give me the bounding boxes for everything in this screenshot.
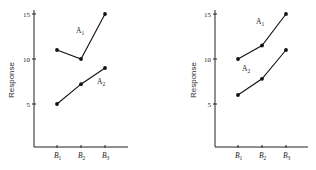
data-point [79, 82, 83, 86]
x-tick-label: B1 [235, 151, 243, 161]
data-point [55, 102, 59, 106]
data-point [55, 48, 59, 52]
series-label-a1: A1 [256, 17, 264, 27]
interaction-plots: 51015B1B2B3ResponseA1A251015B1B2B3Respon… [0, 0, 316, 170]
data-point [103, 66, 107, 70]
y-tick-label: 5 [208, 101, 212, 109]
y-tick-label: 5 [27, 101, 31, 109]
y-tick-label: 10 [204, 56, 212, 64]
y-tick-label: 15 [23, 11, 31, 19]
x-tick-label: B1 [54, 151, 62, 161]
data-point [79, 57, 83, 61]
y-axis-label: Response [189, 61, 198, 98]
chart-panel-2: 51015B1B2B3ResponseA1A2 [189, 10, 308, 161]
data-point [284, 48, 288, 52]
data-point [236, 57, 240, 61]
series-label-a1: A1 [76, 26, 84, 36]
x-tick-label: B2 [78, 151, 86, 161]
x-tick-label: B3 [283, 151, 291, 161]
data-point [260, 77, 264, 81]
series-label-a2: A2 [242, 64, 250, 74]
series-line-a1 [57, 14, 105, 59]
y-axis-label: Response [7, 61, 16, 98]
data-point [260, 44, 264, 48]
y-tick-label: 10 [23, 56, 31, 64]
data-point [284, 12, 288, 16]
y-tick-label: 15 [204, 11, 212, 19]
x-tick-label: B3 [102, 151, 110, 161]
data-point [236, 93, 240, 97]
series-label-a2: A2 [97, 77, 105, 87]
x-tick-label: B2 [259, 151, 267, 161]
chart-panel-1: 51015B1B2B3ResponseA1A2 [7, 10, 128, 161]
data-point [103, 12, 107, 16]
